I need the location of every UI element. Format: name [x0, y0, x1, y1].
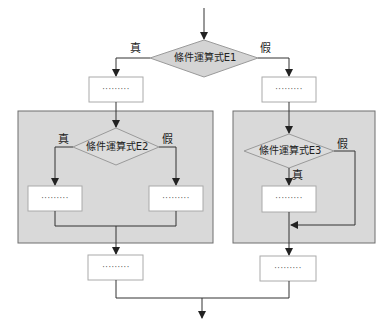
e2-false-label: 假: [162, 134, 173, 145]
e1-true-connector: [116, 58, 150, 76]
process-bottom-right-text: ·········: [274, 265, 301, 273]
e1-true-label: 真: [130, 43, 141, 54]
process-top-left-text: ·········: [102, 86, 129, 94]
e2-true-label: 真: [58, 134, 69, 145]
decision-e2-label: 條件運算式E2: [86, 142, 149, 152]
process-e2-false-text: ·········: [162, 195, 189, 203]
e3-nested-panel: [233, 111, 375, 243]
decision-e3-label: 條件運算式E3: [259, 146, 322, 156]
process-top-right-text: ·········: [275, 86, 302, 94]
e1-false-connector: [258, 58, 289, 76]
process-bottom-left-text: ·········: [102, 264, 129, 272]
process-e3-true-text: ·········: [275, 195, 302, 203]
decision-e1-label: 條件運算式E1: [174, 53, 237, 63]
e3-true-label: 真: [292, 170, 303, 181]
e1-false-label: 假: [260, 43, 271, 54]
final-merge-connector: [116, 280, 289, 298]
e3-false-label: 假: [337, 139, 348, 150]
process-e2-true-text: ·········: [41, 195, 68, 203]
flowchart-canvas: [0, 0, 391, 333]
